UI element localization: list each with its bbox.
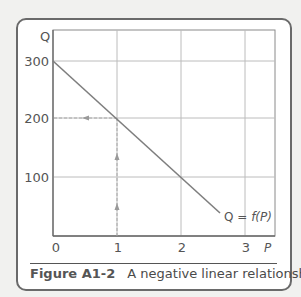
caption-divider <box>30 263 277 264</box>
x-tick-0: 0 <box>52 240 60 255</box>
y-axis-label: Q <box>40 29 50 44</box>
curve-label-eq: = <box>233 210 251 224</box>
x-tick-3: 3 <box>242 240 250 255</box>
y-tick-100: 100 <box>24 170 49 185</box>
arrow-up-icon <box>115 203 120 210</box>
curve-label-f: f(P) <box>251 210 272 224</box>
figure-title: A negative linear relationship <box>127 266 301 281</box>
series-line-q-f-p <box>53 61 220 213</box>
grid-lines <box>53 30 275 236</box>
x-tick-2: 2 <box>178 240 186 255</box>
arrow-up-icon <box>115 153 120 160</box>
arrow-left-icon <box>82 116 89 121</box>
figure-caption: Figure A1-2 A negative linear relationsh… <box>30 266 301 281</box>
curve-label: Q = f(P) <box>224 210 272 224</box>
x-axis-label: P <box>264 241 272 255</box>
y-tick-300: 300 <box>24 54 49 69</box>
x-tick-1: 1 <box>114 240 122 255</box>
y-tick-200: 200 <box>24 111 49 126</box>
curve-label-q: Q <box>224 210 233 224</box>
figure-number: Figure A1-2 <box>30 266 115 281</box>
chart-plot: Q P 300 200 100 0 1 2 3 Q = f(P) <box>0 0 301 297</box>
